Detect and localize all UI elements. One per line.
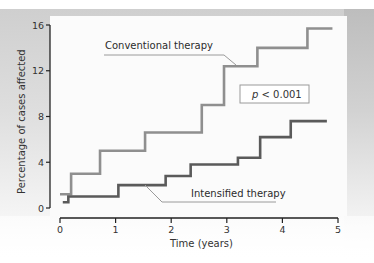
x-axis-title: Time (years) bbox=[169, 238, 233, 249]
x-tick-label: 2 bbox=[168, 224, 174, 235]
y-tick-label: 16 bbox=[32, 20, 44, 31]
y-axis: 0481216 bbox=[32, 20, 50, 214]
p-value-text: p < 0.001 bbox=[251, 89, 302, 100]
x-axis: 012345 bbox=[57, 218, 341, 235]
x-tick-label: 3 bbox=[224, 224, 230, 235]
x-tick-label: 4 bbox=[279, 224, 285, 235]
y-axis-title: Percentage of cases affected bbox=[16, 49, 27, 194]
x-tick-label: 0 bbox=[57, 224, 63, 235]
y-tick-label: 12 bbox=[32, 65, 44, 76]
step-chart: 0481216 012345 Conventional therapy Inte… bbox=[0, 0, 374, 263]
intensified-callout: Intensified therapy bbox=[145, 185, 286, 202]
conventional-label: Conventional therapy bbox=[105, 40, 213, 51]
x-tick-label: 5 bbox=[335, 224, 341, 235]
conventional-leader-line bbox=[104, 55, 236, 65]
y-tick-label: 8 bbox=[38, 111, 44, 122]
x-tick-label: 1 bbox=[113, 224, 119, 235]
conventional-series-line bbox=[60, 28, 332, 194]
y-tick-label: 4 bbox=[38, 157, 44, 168]
intensified-label: Intensified therapy bbox=[191, 188, 286, 199]
conventional-callout: Conventional therapy bbox=[104, 40, 236, 65]
p-value-annotation: p < 0.001 bbox=[240, 85, 309, 103]
y-tick-label: 0 bbox=[38, 203, 44, 214]
